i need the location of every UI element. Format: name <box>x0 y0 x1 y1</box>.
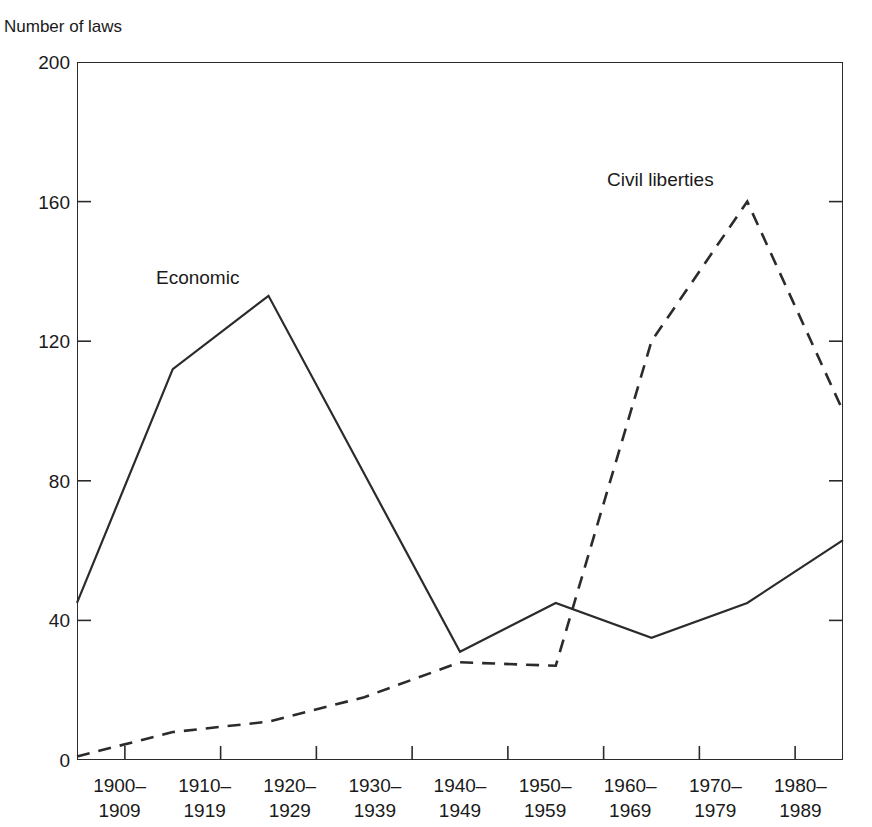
x-tick-label-line1: 1900– <box>77 773 162 798</box>
x-tick-label-line1: 1910– <box>162 773 247 798</box>
x-tick-label-line2: 1949 <box>417 798 502 823</box>
series-line-economic <box>77 296 843 652</box>
y-axis-tick-labels: 04080120160200 <box>0 0 70 827</box>
x-tick-label-line2: 1989 <box>758 798 843 823</box>
x-tick-label-line2: 1959 <box>503 798 588 823</box>
x-tick-label: 1970–1979 <box>673 773 758 827</box>
x-tick-label-line1: 1980– <box>758 773 843 798</box>
x-tick-label: 1900–1909 <box>77 773 162 827</box>
x-tick-label: 1930–1939 <box>332 773 417 827</box>
y-tick-label: 80 <box>8 472 70 491</box>
y-tick-label: 200 <box>8 53 70 72</box>
x-tick-label: 1910–1919 <box>162 773 247 827</box>
series-label-civil-liberties: Civil liberties <box>607 170 714 189</box>
y-tick-label: 0 <box>8 751 70 770</box>
x-tick-label: 1980–1989 <box>758 773 843 827</box>
y-tick-label: 160 <box>8 193 70 212</box>
x-tick-label: 1940–1949 <box>417 773 502 827</box>
x-tick-label-line2: 1939 <box>332 798 417 823</box>
x-tick-label-line2: 1909 <box>77 798 162 823</box>
y-tick-label: 40 <box>8 611 70 630</box>
x-tick-label-line2: 1919 <box>162 798 247 823</box>
x-tick-label-line2: 1969 <box>588 798 673 823</box>
x-tick-label-line2: 1929 <box>247 798 332 823</box>
x-axis-tick-labels: 1900–19091910–19191920–19291930–19391940… <box>77 773 843 827</box>
series-label-economic: Economic <box>156 268 239 287</box>
x-tick-label-line1: 1940– <box>417 773 502 798</box>
x-tick-label-line1: 1950– <box>503 773 588 798</box>
x-tick-label-line1: 1970– <box>673 773 758 798</box>
x-tick-label: 1960–1969 <box>588 773 673 827</box>
x-tick-label-line2: 1979 <box>673 798 758 823</box>
x-tick-label-line1: 1930– <box>332 773 417 798</box>
chart-root: Number of laws 04080120160200 Economic C… <box>0 0 872 827</box>
x-tick-label-line1: 1920– <box>247 773 332 798</box>
y-tick-label: 120 <box>8 332 70 351</box>
x-tick-label-line1: 1960– <box>588 773 673 798</box>
x-tick-label: 1920–1929 <box>247 773 332 827</box>
clipped-header-text <box>0 0 872 14</box>
plot-area <box>77 62 843 760</box>
x-tick-label: 1950–1959 <box>503 773 588 827</box>
